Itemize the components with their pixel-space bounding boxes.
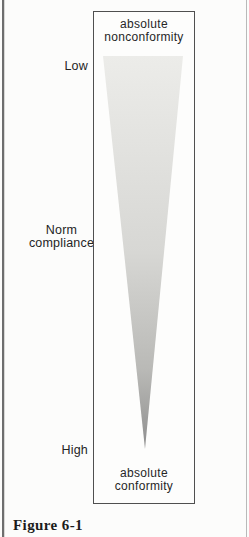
conformity-wedge: [94, 12, 194, 503]
scale-label-high: High: [0, 444, 88, 457]
wedge-shape: [103, 56, 183, 449]
scale-label-norm-line1: Norm: [46, 223, 77, 237]
top-extreme-label-line1: absolute: [120, 17, 168, 31]
top-extreme-label-line2: nonconformity: [104, 30, 183, 44]
bottom-extreme-label: absolute conformity: [94, 467, 194, 493]
bottom-extreme-label-line2: conformity: [115, 479, 173, 493]
top-extreme-label: absolute nonconformity: [94, 18, 194, 44]
diagram-frame: absolute nonconformity absolute conformi…: [93, 11, 195, 504]
scale-label-low: Low: [0, 60, 88, 73]
page-right-rule: [246, 0, 247, 537]
scale-label-high-text: High: [61, 443, 88, 457]
figure-caption: Figure 6-1: [13, 517, 83, 534]
book-page: Low Norm compliance High absolute noncon…: [0, 0, 249, 537]
bottom-extreme-label-line1: absolute: [120, 466, 168, 480]
scale-label-norm-line2: compliance: [29, 236, 94, 250]
scale-label-low-text: Low: [64, 59, 88, 73]
